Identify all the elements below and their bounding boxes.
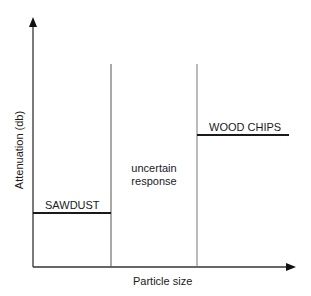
diagram-canvas	[0, 0, 311, 296]
x-axis-label: Particle size	[133, 275, 192, 288]
uncertain-label-line1: uncertain	[111, 162, 197, 175]
x-axis-arrow-icon	[286, 263, 296, 271]
y-axis-label: Attenuation (db)	[13, 111, 25, 189]
wood-chips-label: WOOD CHIPS	[209, 121, 281, 134]
y-axis-arrow-icon	[29, 17, 37, 27]
uncertain-label-line2: response	[111, 175, 197, 188]
sawdust-label: SAWDUST	[45, 199, 100, 212]
